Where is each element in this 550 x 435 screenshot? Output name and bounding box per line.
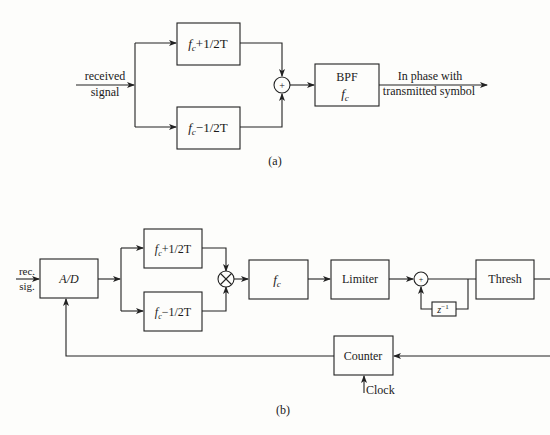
upper-to-summer-a (240, 43, 282, 76)
filter-lower-a: fc−1/2T (177, 107, 240, 149)
input-label-line1: received (85, 69, 126, 83)
panel-a: received signal fc+1/2T fc−1/2T + (76, 23, 487, 168)
thresh-block: Thresh (476, 260, 534, 299)
feedback-right-b (456, 279, 468, 309)
svg-text:Limiter: Limiter (342, 272, 378, 286)
svg-text:BPF: BPF (336, 70, 358, 84)
output-label-line2: transmitted symbol (383, 84, 476, 98)
input-label-b-line2: sig. (19, 280, 35, 292)
diagram-canvas: received signal fc+1/2T fc−1/2T + (0, 0, 550, 435)
feedback-left-b (421, 287, 432, 309)
output-label-line1: In phase with (398, 69, 463, 83)
filter-lower-b: fc−1/2T (144, 292, 202, 331)
svg-text:Counter: Counter (344, 349, 383, 363)
lower-to-summer-a (240, 94, 282, 127)
fc-filter-block: fc (249, 260, 308, 299)
upper-to-mult-b (202, 248, 226, 271)
bpf-block: BPF fc (315, 64, 379, 106)
caption-a: (a) (268, 154, 281, 168)
filter-upper-b: fc+1/2T (144, 229, 202, 268)
counter-block: Counter (334, 336, 393, 375)
svg-text:+: + (279, 80, 285, 91)
caption-b: (b) (276, 403, 290, 417)
svg-text:+: + (419, 275, 424, 284)
input-label-b-line1: rec. (19, 265, 35, 277)
svg-text:A/D: A/D (58, 272, 79, 286)
delay-block: z−1 (432, 302, 456, 316)
input-label-line2: signal (91, 85, 120, 99)
svg-text:Thresh: Thresh (488, 272, 521, 286)
lower-to-mult-b (202, 287, 226, 311)
clock-label: Clock (366, 383, 395, 397)
multiplier (218, 271, 234, 287)
summer-b: + (414, 272, 428, 286)
adc-block: A/D (40, 259, 98, 298)
filter-upper-a: fc+1/2T (177, 23, 240, 65)
limiter-block: Limiter (331, 260, 389, 299)
panel-b: rec. sig. A/D fc+1/2T fc−1/2T (16, 229, 550, 417)
summer-a: + (274, 77, 290, 93)
